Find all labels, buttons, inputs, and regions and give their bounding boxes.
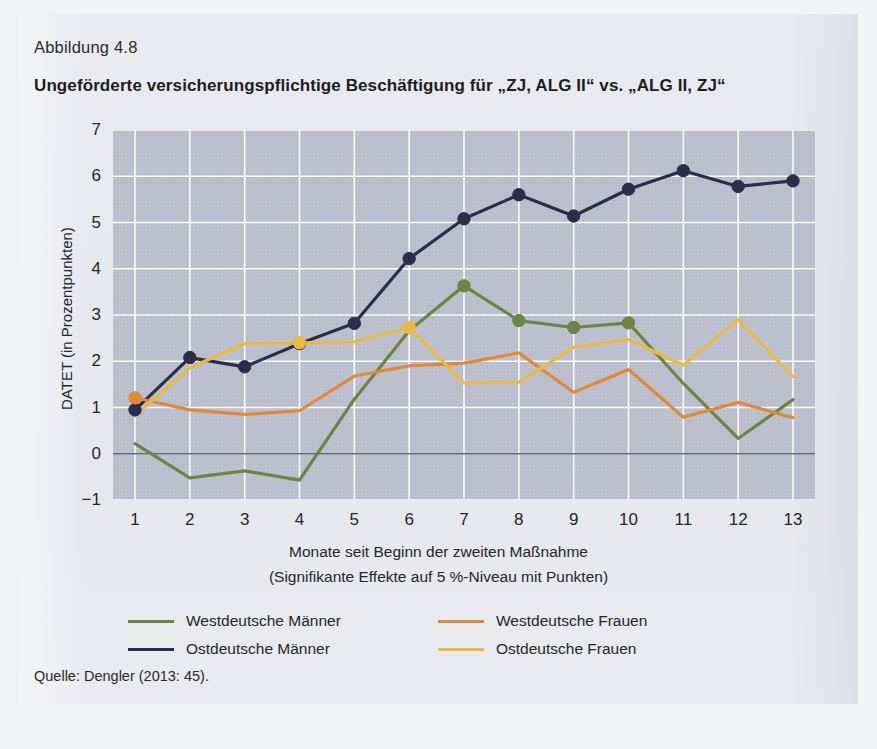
significant-point-marker [622, 317, 634, 329]
legend-item: Ostdeutsche Frauen [438, 640, 636, 658]
x-tick-label: 12 [718, 510, 758, 530]
significant-point-marker [458, 280, 470, 292]
x-tick-label: 13 [773, 510, 813, 530]
legend-item: Westdeutsche Männer [128, 612, 341, 630]
y-tick-label: 4 [65, 259, 101, 279]
significant-point-marker [348, 317, 360, 329]
x-tick-label: 1 [115, 510, 155, 530]
x-tick-label: 11 [663, 510, 703, 530]
y-tick-label: 2 [65, 351, 101, 371]
x-tick-label: 8 [499, 510, 539, 530]
significant-point-marker [129, 392, 141, 404]
significant-point-marker [567, 321, 579, 333]
significant-point-marker [567, 210, 579, 222]
x-tick-label: 3 [225, 510, 265, 530]
y-tick-label: 3 [65, 305, 101, 325]
x-tick-label: 9 [554, 510, 594, 530]
significant-point-marker [129, 404, 141, 416]
significant-point-marker [622, 183, 634, 195]
y-tick-label: 0 [65, 444, 101, 464]
significant-point-marker [732, 180, 744, 192]
significant-point-marker [403, 252, 415, 264]
significant-point-marker [238, 361, 250, 373]
significant-point-marker [513, 189, 525, 201]
chart-plot-area [113, 130, 815, 500]
significant-point-marker [513, 314, 525, 326]
y-tick-label: 1 [65, 398, 101, 418]
legend-label: Ostdeutsche Männer [186, 640, 330, 658]
figure-page: Abbildung 4.8 Ungeförderte versicherungs… [0, 0, 877, 749]
y-tick-label: 6 [65, 166, 101, 186]
source-note: Quelle: Dengler (2013: 45). [34, 668, 209, 684]
figure-title: Ungeförderte versicherungspflichtige Bes… [34, 76, 726, 96]
significant-point-marker [403, 321, 415, 333]
y-tick-label: −1 [65, 490, 101, 510]
y-tick-label: 7 [65, 120, 101, 140]
legend-item: Ostdeutsche Männer [128, 640, 330, 658]
chart-legend: Westdeutsche MännerOstdeutsche MännerWes… [128, 612, 768, 668]
x-axis-caption-line1: Monate seit Beginn der zweiten Maßnahme [0, 543, 877, 561]
significant-point-marker [787, 175, 799, 187]
chart-svg [113, 130, 815, 500]
significant-point-marker [677, 165, 689, 177]
x-tick-label: 7 [444, 510, 484, 530]
legend-swatch-line-icon [128, 648, 174, 651]
x-tick-label: 4 [280, 510, 320, 530]
x-tick-label: 2 [170, 510, 210, 530]
x-axis-caption-line2: (Signifikante Effekte auf 5 %-Niveau mit… [0, 568, 877, 586]
legend-item: Westdeutsche Frauen [438, 612, 647, 630]
legend-swatch-line-icon [438, 620, 484, 623]
significant-point-marker [184, 351, 196, 363]
legend-label: Westdeutsche Frauen [496, 612, 647, 630]
figure-label: Abbildung 4.8 [34, 38, 138, 57]
legend-label: Westdeutsche Männer [186, 612, 341, 630]
x-tick-label: 5 [334, 510, 374, 530]
legend-label: Ostdeutsche Frauen [496, 640, 636, 658]
significant-point-marker [293, 337, 305, 349]
significant-point-marker [458, 213, 470, 225]
legend-swatch-line-icon [438, 648, 484, 651]
x-tick-label: 10 [609, 510, 649, 530]
x-tick-label: 6 [389, 510, 429, 530]
y-tick-label: 5 [65, 213, 101, 233]
legend-swatch-line-icon [128, 620, 174, 623]
